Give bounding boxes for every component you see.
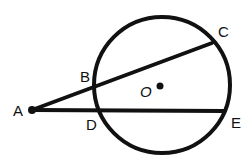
- label-d: D: [86, 116, 97, 133]
- point-a-dot: [28, 106, 36, 114]
- diagram-canvas: A B C D E O: [0, 0, 251, 164]
- label-a: A: [13, 102, 23, 119]
- label-o: O: [140, 83, 152, 100]
- label-c: C: [218, 23, 229, 40]
- secant-circle-diagram: A B C D E O: [0, 0, 251, 164]
- label-e: E: [231, 114, 241, 131]
- label-b: B: [80, 68, 90, 85]
- secant-line-ae: [32, 110, 224, 111]
- secant-line-ac: [32, 43, 212, 110]
- center-o-dot: [157, 83, 164, 90]
